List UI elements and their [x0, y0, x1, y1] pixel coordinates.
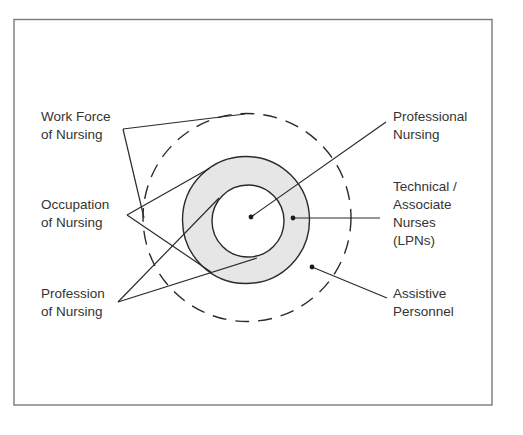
- label-line: Profession: [41, 286, 105, 301]
- label-line: Nursing: [393, 127, 440, 142]
- nursing-levels-diagram: Work Force of Nursing Occupation of Nurs…: [0, 0, 523, 435]
- label-professional-nursing: Professional Nursing: [393, 109, 471, 142]
- label-line: Work Force: [41, 109, 111, 124]
- label-line: of Nursing: [41, 127, 103, 142]
- technical-associate-dot: [291, 216, 296, 221]
- label-line: Occupation: [41, 197, 109, 212]
- label-line: (LPNs): [393, 233, 435, 248]
- label-line: Associate: [393, 197, 452, 212]
- label-assistive-personnel: Assistive Personnel: [393, 286, 454, 319]
- label-line: Technical /: [393, 179, 457, 194]
- label-line: of Nursing: [41, 304, 103, 319]
- inner-circle: [212, 185, 284, 257]
- assistive-personnel-leader: [312, 267, 387, 298]
- assistive-personnel-dot: [310, 265, 315, 270]
- label-technical-associate: Technical / Associate Nurses (LPNs): [393, 179, 461, 248]
- work-force-leader-top: [123, 114, 245, 129]
- work-force-leader-bottom: [123, 129, 144, 218]
- label-profession: Profession of Nursing: [41, 286, 109, 319]
- label-line: of Nursing: [41, 215, 103, 230]
- label-line: Assistive: [393, 286, 446, 301]
- professional-nursing-dot: [249, 215, 254, 220]
- label-occupation: Occupation of Nursing: [41, 197, 113, 230]
- label-line: Nurses: [393, 215, 436, 230]
- label-line: Personnel: [393, 304, 454, 319]
- label-work-force: Work Force of Nursing: [41, 109, 114, 142]
- label-line: Professional: [393, 109, 467, 124]
